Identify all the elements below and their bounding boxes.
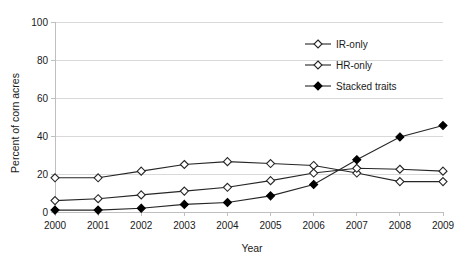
data-point-0-9 xyxy=(439,178,447,186)
y-tick-label-0: 0 xyxy=(42,207,48,218)
chart-container: 020406080100 200020012002200320042005200… xyxy=(0,0,458,274)
x-axis-title: Year xyxy=(241,242,263,254)
data-point-0-1 xyxy=(94,174,102,182)
series-ir-only xyxy=(51,158,447,186)
x-tick-label-2003: 2003 xyxy=(173,220,196,231)
data-point-2-4 xyxy=(223,199,231,207)
x-tick-label-2008: 2008 xyxy=(389,220,412,231)
data-point-1-1 xyxy=(94,195,102,203)
data-point-0-6 xyxy=(310,161,318,169)
legend-item-stacked-traits: Stacked traits xyxy=(305,81,397,92)
x-tick-label-2001: 2001 xyxy=(87,220,110,231)
tick-marks-group xyxy=(51,22,443,216)
x-axis-tick-labels: 2000200120022003200420052006200720082009 xyxy=(44,220,455,231)
data-point-2-5 xyxy=(267,192,275,200)
legend-label-0: IR-only xyxy=(336,39,368,50)
data-point-2-1 xyxy=(94,206,102,214)
y-axis-title: Percent of corn acres xyxy=(9,73,21,173)
data-point-1-4 xyxy=(223,183,231,191)
data-point-1-6 xyxy=(310,169,318,177)
data-point-1-5 xyxy=(267,177,275,185)
line-chart: 020406080100 200020012002200320042005200… xyxy=(0,0,458,274)
data-point-2-6 xyxy=(310,180,318,188)
data-point-0-4 xyxy=(223,158,231,166)
data-point-2-2 xyxy=(137,204,145,212)
legend-label-1: HR-only xyxy=(336,60,372,71)
legend-marker-2 xyxy=(314,82,322,90)
series-hr-only xyxy=(51,164,447,204)
data-point-0-0 xyxy=(51,174,59,182)
data-point-2-3 xyxy=(180,200,188,208)
legend-marker-0 xyxy=(314,40,322,48)
data-point-1-2 xyxy=(137,191,145,199)
data-point-2-7 xyxy=(353,156,361,164)
legend-marker-1 xyxy=(314,61,322,69)
data-point-2-8 xyxy=(396,133,404,141)
y-tick-label-60: 60 xyxy=(37,93,49,104)
series-line-0 xyxy=(55,162,443,182)
series-stacked-traits xyxy=(51,122,447,215)
y-tick-label-100: 100 xyxy=(31,17,48,28)
data-point-0-5 xyxy=(267,160,275,168)
series-line-1 xyxy=(55,168,443,200)
legend-label-2: Stacked traits xyxy=(336,81,397,92)
y-tick-label-20: 20 xyxy=(37,169,49,180)
x-tick-label-2007: 2007 xyxy=(346,220,369,231)
data-point-1-0 xyxy=(51,197,59,205)
legend-item-hr-only: HR-only xyxy=(305,60,372,71)
x-tick-label-2005: 2005 xyxy=(259,220,282,231)
data-point-0-3 xyxy=(180,161,188,169)
x-tick-label-2000: 2000 xyxy=(44,220,67,231)
y-axis-tick-labels: 020406080100 xyxy=(31,17,48,218)
data-series-group xyxy=(51,122,447,215)
data-point-2-9 xyxy=(439,122,447,130)
x-tick-label-2006: 2006 xyxy=(303,220,326,231)
y-tick-label-80: 80 xyxy=(37,55,49,66)
chart-legend: IR-onlyHR-onlyStacked traits xyxy=(305,39,397,92)
x-tick-label-2004: 2004 xyxy=(216,220,239,231)
data-point-1-3 xyxy=(180,187,188,195)
legend-item-ir-only: IR-only xyxy=(305,39,368,50)
x-tick-label-2002: 2002 xyxy=(130,220,153,231)
data-point-0-8 xyxy=(396,178,404,186)
data-point-2-0 xyxy=(51,206,59,214)
y-tick-label-40: 40 xyxy=(37,131,49,142)
data-point-1-8 xyxy=(396,165,404,173)
x-tick-label-2009: 2009 xyxy=(432,220,455,231)
